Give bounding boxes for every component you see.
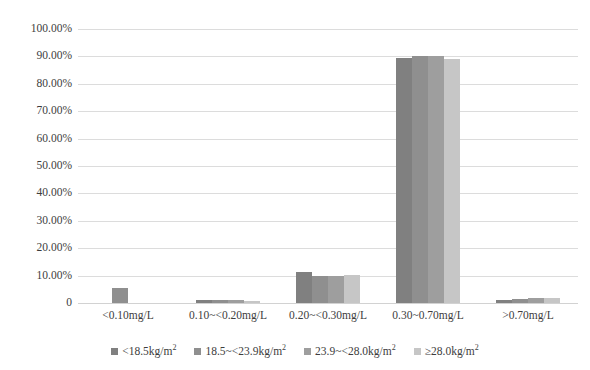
y-tick-label: 60.00% bbox=[0, 133, 72, 145]
y-tick-label: 70.00% bbox=[0, 105, 72, 117]
y-tick-label: 80.00% bbox=[0, 78, 72, 90]
x-axis: <0.10mg/L0.10~<0.20mg/L0.20~<0.30mg/L0.3… bbox=[78, 308, 578, 332]
legend-swatch-icon bbox=[111, 348, 118, 355]
bar[interactable] bbox=[528, 298, 544, 303]
y-tick-label: 20.00% bbox=[0, 242, 72, 254]
bar[interactable] bbox=[444, 59, 460, 303]
legend-label-superscript: 2 bbox=[282, 343, 286, 352]
bar[interactable] bbox=[412, 56, 428, 303]
bar-group bbox=[278, 29, 378, 303]
bar-group bbox=[478, 29, 578, 303]
bars-layer bbox=[78, 29, 578, 303]
bar[interactable] bbox=[244, 301, 260, 303]
y-tick-label: 90.00% bbox=[0, 50, 72, 62]
legend-swatch-icon bbox=[414, 348, 421, 355]
chart-legend: <18.5kg/m218.5~<23.9kg/m223.9~<28.0kg/m2… bbox=[0, 340, 590, 362]
legend-item[interactable]: <18.5kg/m2 bbox=[111, 345, 176, 358]
x-tick-label: 0.20~<0.30mg/L bbox=[278, 308, 378, 322]
legend-item[interactable]: ≥28.0kg/m2 bbox=[414, 345, 479, 358]
bar[interactable] bbox=[328, 276, 344, 303]
legend-label: <18.5kg/m2 bbox=[122, 345, 176, 358]
legend-label: ≥28.0kg/m2 bbox=[425, 345, 479, 358]
axis-baseline bbox=[78, 303, 578, 304]
bar[interactable] bbox=[512, 299, 528, 303]
bar[interactable] bbox=[312, 276, 328, 303]
bar[interactable] bbox=[112, 288, 128, 303]
legend-label: 18.5~<23.9kg/m2 bbox=[205, 345, 286, 358]
legend-label-superscript: 2 bbox=[392, 343, 396, 352]
bar-group bbox=[78, 29, 178, 303]
legend-swatch-icon bbox=[194, 348, 201, 355]
legend-label-superscript: 2 bbox=[475, 343, 479, 352]
legend-item[interactable]: 23.9~<28.0kg/m2 bbox=[304, 345, 396, 358]
legend-swatch-icon bbox=[304, 348, 311, 355]
y-tick-label: 0 bbox=[0, 297, 72, 309]
y-axis: 010.00%20.00%30.00%40.00%50.00%60.00%70.… bbox=[0, 0, 72, 370]
x-tick-label: 0.10~<0.20mg/L bbox=[178, 308, 278, 322]
bar[interactable] bbox=[428, 56, 444, 303]
bar[interactable] bbox=[544, 298, 560, 303]
x-tick-label: <0.10mg/L bbox=[78, 308, 178, 322]
legend-label: 23.9~<28.0kg/m2 bbox=[315, 345, 396, 358]
y-tick-label: 50.00% bbox=[0, 160, 72, 172]
bar[interactable] bbox=[212, 300, 228, 303]
legend-label-text: ≥28.0kg/m bbox=[425, 345, 475, 357]
bar[interactable] bbox=[228, 300, 244, 303]
legend-label-text: 23.9~<28.0kg/m bbox=[315, 345, 392, 357]
y-tick-label: 40.00% bbox=[0, 187, 72, 199]
bar[interactable] bbox=[196, 300, 212, 303]
x-tick-label: 0.30~0.70mg/L bbox=[378, 308, 478, 322]
y-tick-label: 100.00% bbox=[0, 23, 72, 35]
legend-label-text: <18.5kg/m bbox=[122, 345, 172, 357]
legend-item[interactable]: 18.5~<23.9kg/m2 bbox=[194, 345, 286, 358]
bar[interactable] bbox=[496, 300, 512, 303]
bar-chart: 010.00%20.00%30.00%40.00%50.00%60.00%70.… bbox=[0, 0, 590, 370]
bar[interactable] bbox=[296, 272, 312, 304]
bar-group bbox=[378, 29, 478, 303]
bar[interactable] bbox=[344, 275, 360, 303]
legend-label-superscript: 2 bbox=[172, 343, 176, 352]
x-tick-label: >0.70mg/L bbox=[478, 308, 578, 322]
y-tick-label: 10.00% bbox=[0, 270, 72, 282]
y-tick-label: 30.00% bbox=[0, 215, 72, 227]
bar-group bbox=[178, 29, 278, 303]
legend-label-text: 18.5~<23.9kg/m bbox=[205, 345, 282, 357]
bar[interactable] bbox=[396, 58, 412, 303]
